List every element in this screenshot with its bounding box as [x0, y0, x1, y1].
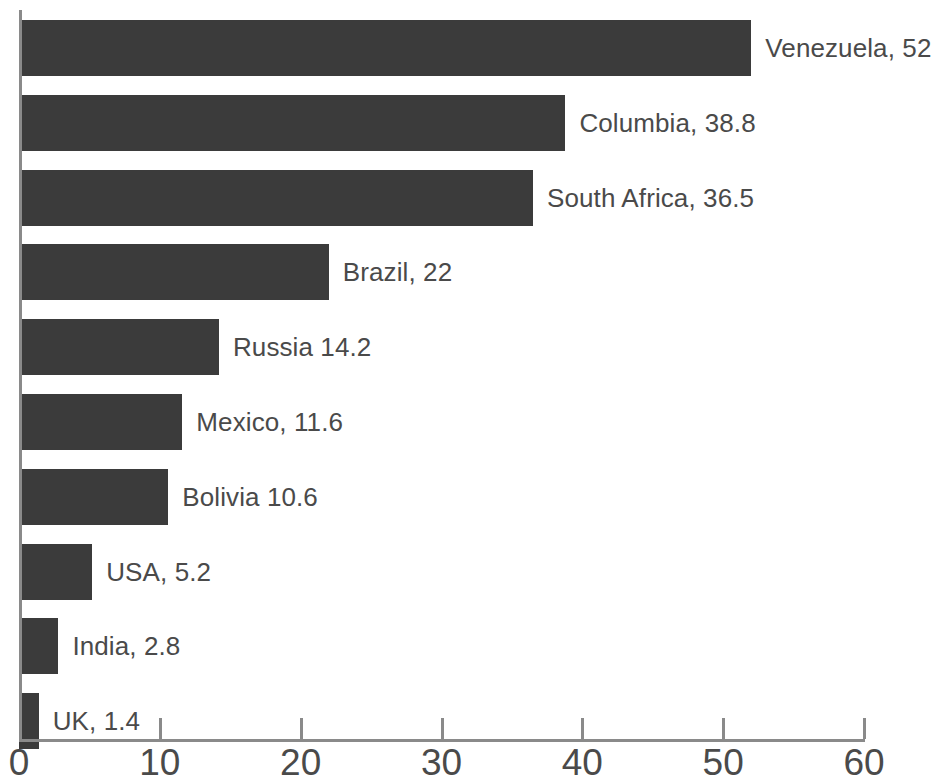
bar-row: USA, 5.2 [0, 544, 931, 600]
x-axis-tick-label: 40 [562, 742, 603, 779]
bar-row: Russia 14.2 [0, 319, 931, 375]
bar [19, 544, 92, 600]
bar-value-label: Columbia, 38.8 [579, 107, 755, 138]
bar-row: South Africa, 36.5 [0, 170, 931, 226]
bar-chart: Venezuela, 52Columbia, 38.8South Africa,… [0, 0, 931, 779]
bar-row: Venezuela, 52 [0, 20, 931, 76]
x-axis-tick-mark [300, 718, 303, 739]
bar-row: India, 2.8 [0, 618, 931, 674]
y-axis-line [19, 10, 22, 741]
bar-value-label: USA, 5.2 [106, 556, 211, 587]
bar-row: Bolivia 10.6 [0, 469, 931, 525]
x-axis-tick-label: 20 [280, 742, 321, 779]
x-axis-tick-label: 10 [139, 742, 180, 779]
x-axis-tick-mark [722, 718, 725, 739]
x-axis-tick-label: 0 [9, 742, 30, 779]
bar [19, 319, 219, 375]
bar-row: Mexico, 11.6 [0, 394, 931, 450]
bar-value-label: Mexico, 11.6 [196, 407, 343, 438]
x-axis-tick-label: 30 [421, 742, 462, 779]
x-axis-tick-mark [863, 718, 866, 739]
bar-row: Brazil, 22 [0, 244, 931, 300]
bar [19, 469, 168, 525]
bar-value-label: India, 2.8 [72, 631, 180, 662]
bar [19, 394, 182, 450]
bar [19, 170, 533, 226]
plot-area: Venezuela, 52Columbia, 38.8South Africa,… [0, 0, 931, 779]
bar-value-label: South Africa, 36.5 [547, 182, 754, 213]
bar-value-label: Russia 14.2 [233, 332, 371, 363]
x-axis-tick-mark [441, 718, 444, 739]
x-axis-tick-mark [581, 718, 584, 739]
bar-value-label: UK, 1.4 [53, 706, 140, 737]
bar-value-label: Venezuela, 52 [765, 33, 931, 64]
x-axis-tick-label: 50 [703, 742, 744, 779]
bar [19, 244, 329, 300]
bar [19, 95, 565, 151]
bar [19, 20, 751, 76]
bar [19, 618, 58, 674]
bar-value-label: Brazil, 22 [343, 257, 452, 288]
bar-row: Columbia, 38.8 [0, 95, 931, 151]
bar-value-label: Bolivia 10.6 [182, 481, 318, 512]
x-axis-tick-mark [159, 718, 162, 739]
x-axis-tick-label: 60 [843, 742, 884, 779]
